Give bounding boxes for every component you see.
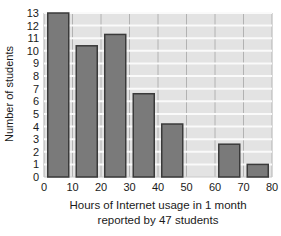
histogram-figure: 01020304050607080012345678910111213 Numb…	[0, 0, 281, 236]
bar	[219, 144, 240, 177]
x-tick-label: 30	[123, 181, 135, 193]
y-tick-label: 1	[33, 158, 39, 170]
y-tick-label: 6	[33, 95, 39, 107]
x-axis-title-line2: reported by 47 students	[44, 214, 272, 226]
x-tick-label: 80	[266, 181, 278, 193]
x-tick-label: 20	[95, 181, 107, 193]
x-tick-label: 10	[66, 181, 78, 193]
y-axis-title: Number of students	[3, 14, 17, 174]
y-tick-label: 4	[33, 121, 39, 133]
y-tick-label: 7	[33, 83, 39, 95]
bar	[247, 164, 268, 177]
y-tick-label: 11	[28, 32, 39, 44]
bar	[76, 46, 97, 177]
bar	[133, 94, 154, 177]
x-tick-label: 40	[152, 181, 164, 193]
y-tick-label: 5	[33, 108, 39, 120]
x-tick-label: 70	[237, 181, 249, 193]
y-tick-label: 2	[33, 146, 39, 158]
bar	[162, 124, 183, 177]
y-tick-label: 13	[27, 7, 39, 19]
bar	[105, 34, 126, 177]
y-tick-label: 9	[33, 57, 39, 69]
x-axis-title-line1: Hours of Internet usage in 1 month	[44, 199, 272, 211]
x-tick-label: 60	[209, 181, 221, 193]
y-tick-label: 12	[27, 20, 39, 32]
x-tick-label: 50	[180, 181, 192, 193]
x-tick-label: 0	[41, 181, 47, 193]
y-tick-label: 10	[27, 45, 39, 57]
bar	[48, 13, 69, 177]
y-tick-label: 0	[33, 171, 39, 183]
y-tick-label: 8	[33, 70, 39, 82]
y-tick-label: 3	[33, 133, 39, 145]
